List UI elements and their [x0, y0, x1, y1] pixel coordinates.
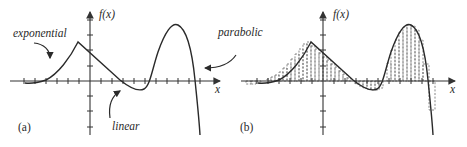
- annotation-exponential: exponential: [13, 27, 67, 40]
- x-axis-label: x: [214, 83, 221, 95]
- y-axis-label: f(x): [333, 8, 349, 21]
- y-axis-label: f(x): [99, 8, 115, 21]
- annotation-parabolic: parabolic: [217, 26, 263, 39]
- arrow-parabolic: [205, 55, 236, 68]
- annotation-linear: linear: [112, 120, 140, 132]
- panel-b: f(x) x (b): [240, 8, 456, 135]
- x-axis-label: x: [449, 83, 456, 95]
- panel-a: f(x) x (a) exponential linear parabolic: [10, 8, 263, 135]
- arrow-linear: [109, 91, 120, 118]
- approximation-strips: [246, 25, 435, 110]
- arrow-exponential: [34, 43, 50, 58]
- panel-label-a: (a): [18, 121, 31, 134]
- panel-label-b: (b): [240, 121, 254, 134]
- figure: f(x) x (a) exponential linear parabolic: [0, 0, 467, 147]
